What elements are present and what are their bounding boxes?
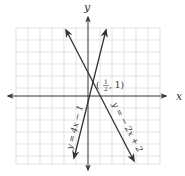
- svg-text:2: 2: [104, 85, 108, 92]
- coordinate-plane: x y ( 1 2 , 1) y = 4x − 1 y = − 2x + 2: [0, 0, 185, 176]
- x-axis-label: x: [176, 90, 183, 103]
- svg-text:(: (: [96, 80, 100, 90]
- svg-text:1: 1: [104, 78, 108, 85]
- y-axis-label: y: [83, 1, 91, 14]
- svg-text:, 1): , 1): [109, 80, 124, 90]
- line-y-4x-minus-1: [74, 30, 106, 158]
- line2-label: y = − 2x + 2: [110, 99, 145, 153]
